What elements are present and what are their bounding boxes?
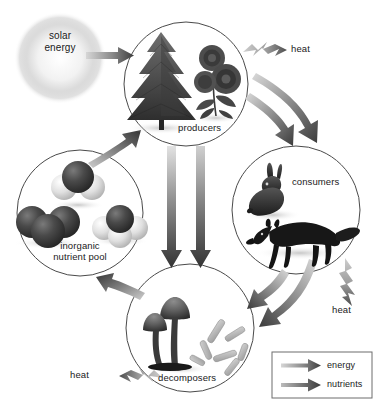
heat-label-producers: heat — [291, 44, 310, 55]
inorganic-nutrient-pool-label-line2: nutrient pool — [20, 252, 140, 263]
legend-label-nutrients: nutrients — [327, 379, 362, 389]
flow-arrow-decomposers-to-nutrient-pool — [96, 273, 145, 300]
inorganic-nutrient-pool-label: inorganic nutrient pool — [20, 241, 140, 263]
solar-energy-label-line2: energy — [22, 42, 98, 54]
legend-box — [272, 352, 372, 398]
flow-arrow-consumers-to-decomposers-energy — [247, 269, 289, 309]
diagram-canvas — [0, 0, 380, 409]
ecosystem-energy-flow-diagram: solar energy producers consumers decompo… — [0, 0, 380, 409]
heat-label-decomposers: heat — [70, 370, 89, 381]
solar-energy-label-line1: solar — [22, 30, 98, 42]
legend-label-energy: energy — [327, 360, 355, 370]
flow-arrow-producers-to-decomposers-energy — [161, 146, 182, 268]
producers-label: producers — [178, 123, 221, 134]
consumers-label: consumers — [292, 177, 339, 188]
heat-arrow-producers-icon — [243, 42, 287, 56]
heat-label-consumers: heat — [332, 305, 351, 316]
heat-arrow-consumers-icon — [339, 258, 355, 306]
decomposers-label: decomposers — [158, 373, 216, 384]
flow-arrow-producers-to-decomposers-nutrients — [190, 146, 211, 268]
solar-energy-label: solar energy — [22, 30, 98, 53]
